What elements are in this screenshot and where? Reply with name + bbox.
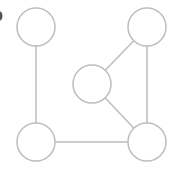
clipped-marker — [0, 11, 3, 21]
node-bottom-right — [128, 123, 166, 161]
node-top-left — [17, 8, 55, 46]
edge-middle-bottom-right — [105, 98, 134, 128]
node-middle — [73, 65, 111, 103]
graph-diagram — [0, 0, 178, 171]
nodes-group — [17, 8, 166, 161]
edge-top-right-middle — [105, 41, 134, 71]
node-bottom-left — [17, 123, 55, 161]
node-top-right — [128, 8, 166, 46]
